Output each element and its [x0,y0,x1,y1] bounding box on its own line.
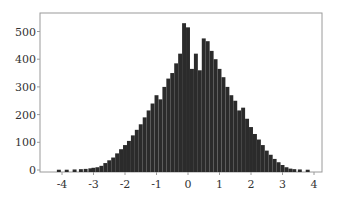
x-tick-label: -3 [88,178,99,191]
y-axis-ticks: 0100200300400500 [15,26,40,178]
histogram-bar [281,165,285,172]
histogram-bar [249,127,253,172]
histogram-bar [123,145,127,172]
histogram-bar [84,169,88,172]
histogram-bar [103,163,107,172]
histogram-bar [119,149,123,172]
histogram-bar [257,140,261,172]
histogram-bar [277,162,281,172]
y-tick-label: 0 [29,164,36,177]
histogram-bar [253,134,257,172]
histogram-bar [139,124,143,172]
histogram-bar [202,38,206,172]
histogram-bar [131,135,135,172]
histogram-bar [298,169,302,172]
histogram-bar [166,79,170,172]
histogram-bar [57,170,61,172]
histogram-bar [111,158,115,172]
histogram-bar [292,169,296,172]
histogram-bar [221,77,225,172]
histogram-bar [99,166,103,172]
x-tick-label: -2 [120,178,131,191]
histogram-bar [269,155,273,172]
histogram-bar [273,159,277,172]
y-tick-label: 300 [15,81,36,94]
histogram-bar [245,119,249,172]
histogram-bar [229,95,233,172]
histogram-bar [190,69,194,172]
x-tick-label: 4 [311,178,318,191]
histogram-bar [135,130,139,172]
y-tick-label: 500 [15,26,36,39]
histogram-bar [79,169,83,172]
histogram-bar [306,170,310,172]
x-tick-label: 0 [185,178,192,191]
x-tick-label: -1 [151,178,162,191]
histogram-bar [151,104,155,172]
y-tick-label: 100 [15,136,36,149]
y-tick-label: 400 [15,53,36,66]
histogram-bar [284,167,288,172]
histogram-bar [210,51,214,172]
x-tick-label: 1 [216,178,223,191]
x-tick-label: -4 [57,178,68,191]
histogram-bar [95,167,99,172]
histogram-bar [158,99,162,172]
x-axis-ticks: -4-3-2-101234 [57,172,318,191]
histogram-bar [107,160,111,172]
histogram-bar [73,169,77,172]
histogram-bar [174,63,178,172]
histogram-bar [127,141,131,172]
histogram-bar [233,101,237,172]
histogram-bar [186,27,190,172]
histogram-bar [214,59,218,172]
histogram-bar [237,110,241,172]
histogram-bar [218,69,222,172]
histogram-chart: -4-3-2-101234 0100200300400500 [0,0,343,197]
histogram-bar [265,151,269,172]
histogram-bar [65,170,69,172]
histogram-bar [92,168,96,172]
histogram-bar [198,70,202,172]
histogram-bar [162,87,166,172]
histogram-bar [170,73,174,172]
histogram-bar [288,169,292,172]
x-tick-label: 2 [248,178,255,191]
y-tick-label: 200 [15,109,36,122]
histogram-bar [115,153,119,172]
x-tick-label: 3 [279,178,286,191]
histogram-bar [225,87,229,172]
histogram-bar [178,54,182,172]
histogram-bar [155,95,159,172]
histogram-bar [143,117,147,172]
histogram-bar [261,145,265,172]
histogram-bar [194,54,198,172]
histogram-bar [147,110,151,172]
histogram-bar [241,108,245,172]
histogram-bar [206,41,210,172]
histogram-bar [182,23,186,172]
